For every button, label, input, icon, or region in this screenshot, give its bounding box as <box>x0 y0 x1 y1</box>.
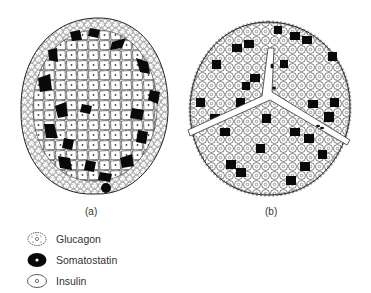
legend-item-somatostatin: Somatostatin <box>26 249 117 270</box>
islet-panel-b <box>188 22 350 195</box>
panel-a-label: (a) <box>85 206 97 217</box>
legend-item-glucagon: Glucagon <box>26 228 117 249</box>
legend: Glucagon Somatostatin Insulin <box>26 228 117 291</box>
insulin-cell-icon <box>26 273 48 289</box>
islet-diagram <box>0 0 371 210</box>
legend-item-insulin: Insulin <box>26 270 117 291</box>
panel-b-label: (b) <box>265 206 277 217</box>
islet-panel-a <box>21 18 168 194</box>
legend-label-glucagon: Glucagon <box>56 233 101 245</box>
legend-label-somatostatin: Somatostatin <box>56 254 117 266</box>
legend-label-insulin: Insulin <box>56 275 86 287</box>
glucagon-cell-icon <box>26 231 48 247</box>
somatostatin-cell-icon <box>26 252 48 268</box>
